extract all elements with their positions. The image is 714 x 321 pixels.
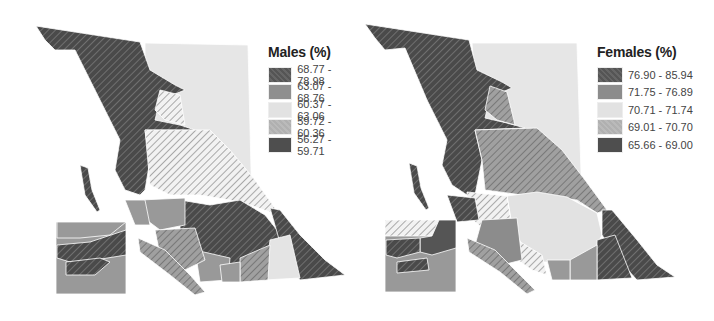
legend-swatch — [597, 137, 623, 153]
legend-label: 71.75 - 76.89 — [628, 86, 693, 98]
males-legend: Males (%) 68.77 - 78.98 63.07 - 68.76 60… — [268, 44, 357, 154]
legend-swatch — [597, 119, 623, 135]
region-haida-gwaii — [80, 165, 100, 212]
legend-label: 69.01 - 70.70 — [628, 121, 693, 133]
legend-label: 65.66 - 69.00 — [628, 139, 693, 151]
vancouver-inset — [385, 220, 456, 292]
males-map-panel: Males (%) 68.77 - 78.98 63.07 - 68.76 60… — [0, 0, 357, 321]
legend-swatch — [597, 67, 623, 83]
females-legend: Females (%) 76.90 - 85.94 71.75 - 76.89 … — [597, 44, 693, 154]
vancouver-inset — [56, 222, 126, 294]
legend-label: 56.27 - 59.71 — [297, 133, 357, 157]
region-fraser — [547, 260, 570, 280]
region-haida-gwaii — [409, 163, 429, 210]
legend-swatch — [268, 119, 292, 135]
legend-label: 70.71 - 71.74 — [628, 104, 693, 116]
legend-swatch — [268, 102, 292, 118]
legend-swatch — [268, 67, 292, 83]
legend-swatch — [597, 84, 623, 100]
females-map-panel: Females (%) 76.90 - 85.94 71.75 - 76.89 … — [357, 0, 714, 321]
legend-swatch — [268, 137, 292, 153]
legend-item: 71.75 - 76.89 — [597, 84, 693, 102]
region-central-coast — [447, 195, 479, 222]
legend-item: 65.66 - 69.00 — [597, 136, 693, 154]
legend-item: 56.27 - 59.71 — [268, 136, 357, 154]
legend-swatch — [597, 102, 623, 118]
legend-item: 70.71 - 71.74 — [597, 101, 693, 119]
legend-title: Females (%) — [597, 44, 693, 60]
legend-label: 76.90 - 85.94 — [628, 69, 693, 81]
legend-item: 76.90 - 85.94 — [597, 66, 693, 84]
legend-swatch — [268, 84, 292, 100]
legend-item: 69.01 - 70.70 — [597, 119, 693, 137]
legend-title: Males (%) — [268, 44, 357, 60]
region-okanagan — [220, 262, 240, 282]
